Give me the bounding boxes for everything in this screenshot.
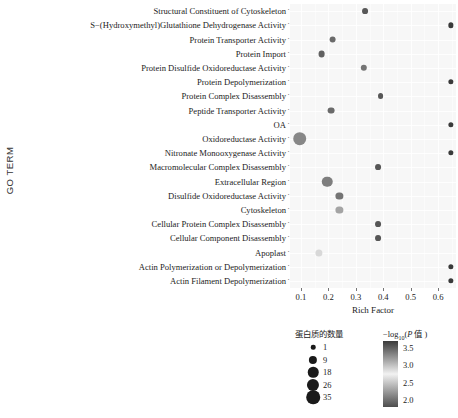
plot-area: [290, 4, 456, 288]
gridline-horizontal: [290, 125, 456, 126]
y-axis-category-label: Peptide Transporter Activity: [189, 105, 286, 117]
size-legend-row: 26: [295, 379, 367, 392]
x-axis-tick-mark: [301, 288, 302, 291]
size-legend-dot: [308, 367, 319, 378]
gridline-horizontal: [290, 40, 456, 41]
size-legend-label: 1: [323, 343, 327, 352]
data-point[interactable]: [375, 164, 381, 170]
gridline-vertical-minor: [397, 4, 398, 288]
size-legend-title: 蛋白质的数量: [295, 327, 343, 339]
x-axis-tick-label: 0.2: [323, 292, 334, 302]
y-axis-category-label: Protein Disulfide Oxidoreductase Activit…: [141, 62, 286, 74]
color-legend-rest: 值 ): [412, 330, 427, 339]
size-legend-dot: [309, 356, 317, 364]
x-axis-tick-label: 0.4: [378, 292, 389, 302]
data-point[interactable]: [329, 36, 336, 43]
gridline-horizontal: [290, 82, 456, 83]
y-axis-category-labels: Structural Constituent of Cytoskeleton·S…: [18, 0, 286, 292]
size-legend-row: 9: [295, 354, 367, 367]
x-axis-tick-label: 0.1: [296, 292, 307, 302]
data-point[interactable]: [328, 107, 335, 114]
y-axis-category-label: Actin Filament Depolymerization: [170, 275, 286, 287]
colorbar-tick-label: 2.5: [403, 378, 413, 387]
gridline-horizontal: [290, 224, 456, 225]
color-legend-title: −log10(P 值 ): [383, 327, 427, 341]
gridline-vertical: [383, 4, 384, 288]
size-legend-row: 1: [295, 341, 367, 354]
gridline-horizontal: [290, 210, 456, 211]
size-legend-dot: [306, 390, 320, 404]
gridline-vertical-minor: [315, 4, 316, 288]
y-axis-category-label: Cellular Protein Complex Disassembly: [152, 218, 286, 230]
x-axis-title: Rich Factor: [290, 305, 456, 315]
gridline-vertical: [356, 4, 357, 288]
data-point[interactable]: [375, 221, 381, 227]
gridline-horizontal: [290, 196, 456, 197]
size-legend-dot: [307, 379, 319, 391]
colorbar-tick-label: 3.0: [403, 361, 413, 370]
x-axis-tick-labels: 0.10.20.30.40.50.6: [272, 292, 458, 305]
data-point[interactable]: [315, 249, 322, 256]
y-axis-category-label: Protein Depolymerization: [197, 76, 286, 88]
x-axis-tick-label: 0.3: [350, 292, 361, 302]
gridline-vertical: [301, 4, 302, 288]
gridline-vertical-minor: [452, 4, 453, 288]
y-axis-category-label: Protein Transporter Activity: [190, 34, 286, 46]
data-point[interactable]: [361, 65, 367, 71]
x-axis-tick-mark: [328, 288, 329, 291]
colorbar-tick-label: 2.0: [403, 396, 413, 405]
y-axis-category-label: S−(Hydroxymethyl)Glutathione Dehydrogena…: [90, 19, 286, 31]
y-axis-title-text: GO TERM: [5, 146, 16, 194]
y-axis-category-label: Extracellular Region: [215, 176, 286, 188]
y-axis-category-label: Apoplast: [255, 247, 286, 259]
size-legend-dot: [311, 345, 316, 350]
gridline-horizontal: [290, 167, 456, 168]
gridline-horizontal: [290, 68, 456, 69]
y-axis-category-label: Protein Complex Disassembly: [181, 90, 286, 102]
gridline-horizontal: [290, 153, 456, 154]
go-enrichment-bubble-chart: GO TERM Structural Constituent of Cytosk…: [0, 0, 458, 418]
gridline-horizontal: [290, 54, 456, 55]
data-point[interactable]: [375, 235, 381, 241]
gridline-vertical-minor: [424, 4, 425, 288]
y-axis-category-label: Protein Import: [236, 48, 286, 60]
data-point[interactable]: [293, 132, 307, 146]
size-legend-row: 18: [295, 366, 367, 379]
data-point[interactable]: [318, 50, 325, 57]
y-axis-category-label: Cellular Component Disassembly: [170, 232, 286, 244]
x-axis-tick-mark: [438, 288, 439, 291]
colorbar: [383, 341, 398, 407]
data-point[interactable]: [322, 176, 333, 187]
y-axis-category-label: Structural Constituent of Cytoskeleton: [154, 5, 286, 17]
size-legend-items: 19182635: [295, 341, 367, 404]
gridline-horizontal: [290, 281, 456, 282]
gridline-horizontal: [290, 238, 456, 239]
y-axis-category-label: Macromolecular Complex Disassembly: [149, 161, 286, 173]
size-legend-row: 35: [295, 391, 367, 404]
y-axis-category-label: Cytoskeleton: [241, 204, 286, 216]
y-axis-category-label: Nitronate Monooxygenase Activity: [165, 147, 286, 159]
x-axis-tick-mark: [411, 288, 412, 291]
y-axis-category-label: Actin Polymerization or Depolymerization: [139, 261, 286, 273]
x-axis-tick-mark: [383, 288, 384, 291]
y-axis-category-label: Disulfide Oxidoreductase Activity: [168, 190, 286, 202]
gridline-vertical-minor: [370, 4, 371, 288]
x-axis-tick-mark: [356, 288, 357, 291]
x-axis-tick-label: 0.5: [405, 292, 416, 302]
gridline-horizontal: [290, 267, 456, 268]
data-point[interactable]: [363, 8, 369, 14]
y-axis-category-label: Oxidoreductase Activity: [202, 133, 286, 145]
size-legend-label: 26: [323, 380, 331, 389]
gridline-vertical: [411, 4, 412, 288]
gridline-horizontal: [290, 111, 456, 112]
color-legend-prefix: −log: [383, 330, 398, 339]
gridline-horizontal: [290, 96, 456, 97]
size-legend-label: 35: [323, 393, 331, 402]
y-axis-category-label: OA: [274, 119, 286, 131]
legend: 蛋白质的数量 −log10(P 值 ) 19182635 3.53.02.52.…: [295, 327, 458, 418]
size-legend-label: 18: [323, 368, 331, 377]
gridline-horizontal: [290, 182, 456, 183]
y-axis-title: GO TERM: [2, 120, 18, 220]
gridline-vertical-minor: [342, 4, 343, 288]
data-point[interactable]: [378, 93, 384, 99]
